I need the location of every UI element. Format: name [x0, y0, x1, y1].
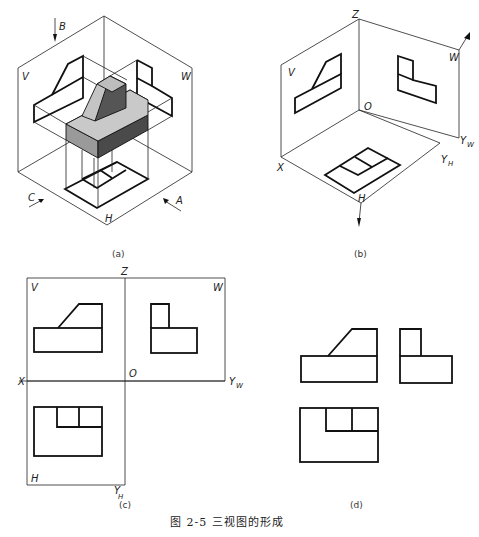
v-h-frame — [27, 278, 125, 485]
figure-caption: 图 2-5 三视图的形成 — [170, 515, 284, 529]
c-top-view — [34, 407, 102, 456]
label-a: A — [175, 195, 183, 206]
panel-caption-c: (c) — [119, 500, 131, 510]
axis-label-yw-sub: W — [236, 382, 244, 390]
v-plane-projection — [34, 56, 83, 122]
panel-caption-d: (d) — [350, 500, 363, 510]
plane-label-w: W — [213, 282, 224, 293]
panel-b: Z V W O X Y W Y H H (b) — [276, 9, 475, 259]
c-front-view — [34, 304, 102, 352]
d-top-view — [300, 408, 378, 462]
axis-label-x: X — [17, 376, 26, 387]
axis-label-yw-sub: W — [467, 141, 475, 149]
arrow-w-up-icon — [459, 32, 470, 50]
axis-label-yw: Y — [460, 135, 467, 146]
c-side-view — [151, 304, 197, 353]
d-front-view — [301, 329, 377, 382]
label-b: B — [59, 21, 66, 32]
axis-label-yh: Y — [441, 154, 448, 165]
plane-label-h: H — [31, 473, 39, 484]
panel-a: B C A V W H (a) — [18, 16, 192, 259]
axis-label-o: O — [364, 101, 372, 112]
arrow-b-icon — [53, 18, 57, 42]
axis-label-o: O — [129, 368, 137, 379]
panel-d: (d) — [300, 329, 452, 510]
plane-label-v: V — [22, 71, 30, 82]
axis-label-z: Z — [120, 266, 129, 277]
plane-label-v: V — [31, 282, 39, 293]
b-top-view — [325, 148, 400, 193]
plane-label-w: W — [181, 71, 192, 82]
v-w-frame — [27, 278, 225, 381]
axis-label-yw: Y — [229, 376, 236, 387]
arrow-h-down-icon — [357, 203, 361, 227]
panel-caption-a: (a) — [112, 249, 125, 259]
b-side-view — [398, 56, 436, 103]
solid-object — [66, 76, 148, 158]
panel-caption-b: (b) — [354, 249, 367, 259]
label-c: C — [28, 192, 35, 203]
axis-label-z: Z — [351, 9, 360, 20]
plane-label-h: H — [358, 193, 366, 204]
three-view-figure: B C A V W H (a) — [0, 0, 479, 537]
h-plane-projection — [65, 162, 148, 208]
axis-label-yh-sub: H — [448, 160, 454, 168]
d-side-view — [400, 329, 452, 383]
b-front-view — [295, 54, 341, 113]
plane-label-w: W — [449, 52, 460, 63]
v-plane-edge — [281, 19, 359, 157]
axis-label-x: X — [276, 162, 285, 173]
panel-c: Z V W O X Y W H Y H (c) — [17, 266, 244, 510]
plane-label-h: H — [105, 213, 113, 224]
plane-label-v: V — [288, 67, 296, 78]
